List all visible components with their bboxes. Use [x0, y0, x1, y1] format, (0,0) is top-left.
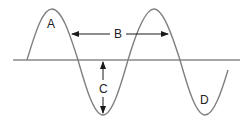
label-b-wavelength: B [114, 27, 122, 41]
label-c-amplitude: C [99, 82, 108, 96]
wave-curve [27, 9, 228, 115]
wave-diagram: A B C D [0, 0, 252, 127]
label-d-trough: D [200, 93, 209, 107]
label-a-crest: A [47, 17, 55, 31]
